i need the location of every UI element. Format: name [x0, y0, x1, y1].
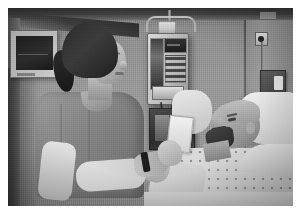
nurse-nose: [120, 61, 127, 70]
hospital-room-photograph: [8, 8, 293, 206]
patient-ear: [246, 122, 255, 134]
nurse-hair: [62, 22, 118, 78]
pump-cassette-slot: [150, 38, 164, 90]
photograph-frame: Black and white photograph of a nurse in…: [0, 0, 296, 210]
nurse-lips: [115, 72, 124, 75]
pump-keypad: [165, 55, 186, 83]
bed-sheet: [144, 192, 293, 206]
patient-figure: [184, 96, 293, 206]
wall-sign-plate: [260, 12, 276, 19]
nurse-figure: [30, 20, 150, 206]
pump-display-screen: [164, 38, 187, 53]
nurse-undershirt-sleeve-left: [37, 140, 77, 201]
